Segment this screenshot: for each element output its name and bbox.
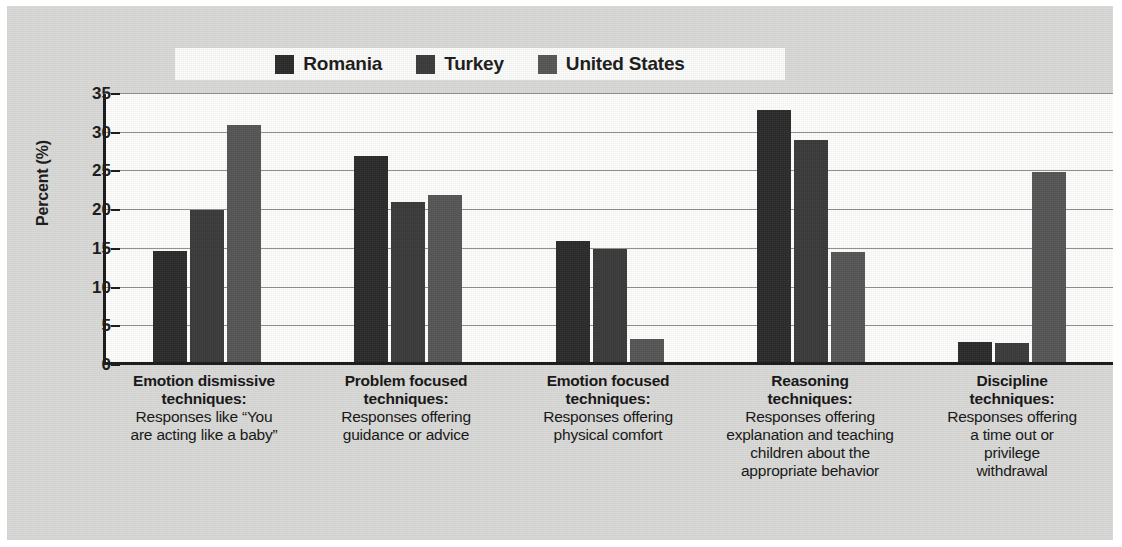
category-description: Responses offeringa time out orprivilege… (915, 408, 1109, 480)
legend-label-turkey: Turkey (444, 53, 504, 75)
category-label-3: Emotion focusedtechniques:Responses offe… (507, 372, 709, 480)
x-axis-line (103, 362, 1113, 365)
bar-united-states (1032, 172, 1066, 365)
y-axis-tick-label: 35 (51, 84, 111, 104)
legend-item-united-states: United States (538, 53, 685, 75)
category-label-2: Problem focusedtechniques:Responses offe… (305, 372, 507, 480)
category-title: Problem focusedtechniques: (309, 372, 503, 408)
bar-turkey (391, 202, 425, 365)
y-axis-tick-label: 20 (51, 200, 111, 220)
category-title: Reasoningtechniques: (713, 372, 907, 408)
legend-item-turkey: Turkey (416, 53, 504, 75)
category-title: Emotion dismissivetechniques: (107, 372, 301, 408)
bar-romania (556, 241, 590, 365)
chart-legend: Romania Turkey United States (175, 48, 785, 80)
category-title: Disciplinetechniques: (915, 372, 1109, 408)
y-axis-tick-label: 5 (51, 316, 111, 336)
y-axis-tick-label: 25 (51, 161, 111, 181)
category-label-1: Emotion dismissivetechniques:Responses l… (103, 372, 305, 480)
bar-united-states (831, 252, 865, 365)
bar-groups (106, 94, 1113, 365)
bar-romania (153, 251, 187, 365)
legend-label-united-states: United States (566, 53, 685, 75)
bar-united-states (227, 125, 261, 365)
legend-label-romania: Romania (303, 53, 382, 75)
plot-area: 05101520253035 (103, 94, 1113, 365)
bar-romania (354, 156, 388, 365)
bar-group (710, 94, 911, 365)
category-label-4: Reasoningtechniques:Responses offeringex… (709, 372, 911, 480)
y-axis-tick-label: 10 (51, 278, 111, 298)
y-axis-label: Percent (%) (34, 103, 52, 263)
category-description: Responses offeringphysical comfort (511, 408, 705, 444)
bar-turkey (190, 210, 224, 365)
bar-turkey (794, 140, 828, 365)
category-title: Emotion focusedtechniques: (511, 372, 705, 408)
figure-panel: Romania Turkey United States Percent (%)… (7, 6, 1113, 540)
bar-turkey (593, 249, 627, 365)
y-axis-tick-label: 0 (51, 355, 111, 375)
bar-romania (757, 110, 791, 366)
category-description: Responses offeringguidance or advice (309, 408, 503, 444)
legend-swatch-united-states (538, 55, 557, 74)
legend-swatch-romania (275, 55, 294, 74)
bar-group (307, 94, 508, 365)
y-axis-tick-label: 15 (51, 239, 111, 259)
category-description: Responses offeringexplanation and teachi… (713, 408, 907, 480)
plot-canvas: 05101520253035 (103, 94, 1113, 365)
category-description: Responses like “Youare acting like a bab… (107, 408, 301, 444)
legend-swatch-turkey (416, 55, 435, 74)
bar-group (912, 94, 1113, 365)
bar-group (509, 94, 710, 365)
bar-united-states (428, 195, 462, 365)
bar-group (106, 94, 307, 365)
category-labels: Emotion dismissivetechniques:Responses l… (103, 372, 1113, 480)
y-axis-tick-label: 30 (51, 123, 111, 143)
category-label-5: Disciplinetechniques:Responses offeringa… (911, 372, 1113, 480)
legend-item-romania: Romania (275, 53, 382, 75)
